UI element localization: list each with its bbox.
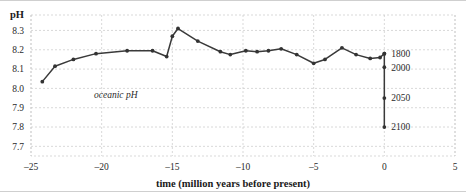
y-tick-label: 7.9 <box>12 103 24 113</box>
data-point-label: 2100 <box>391 122 410 132</box>
data-point-marker <box>151 49 155 53</box>
y-axis-ticks: 7.77.87.98.08.18.28.3 <box>12 26 24 152</box>
data-point-marker <box>94 52 98 56</box>
data-point-marker <box>170 34 174 38</box>
data-point-marker <box>279 47 283 51</box>
y-tick-label: 8.3 <box>12 26 24 36</box>
data-point-marker <box>228 53 232 57</box>
x-tick-label: –15 <box>164 162 180 172</box>
data-point-marker <box>267 49 271 53</box>
chart-figure: 7.77.87.98.08.18.28.3 –25–20–15–10–505 1… <box>0 0 466 192</box>
data-point-marker <box>382 65 386 69</box>
data-series-layer <box>40 27 386 129</box>
y-tick-label: 7.7 <box>12 142 24 152</box>
y-tick-label: 7.8 <box>12 122 24 132</box>
x-tick-label: 5 <box>453 162 458 172</box>
data-point-marker <box>218 50 222 54</box>
data-point-marker <box>312 61 316 65</box>
data-point-marker <box>323 58 327 62</box>
data-point-marker <box>295 53 299 57</box>
data-point-marker <box>255 50 259 54</box>
y-tick-label: 8.1 <box>12 64 24 74</box>
data-point-marker <box>244 49 248 53</box>
data-line-oceanic-pH <box>42 29 384 82</box>
data-point-marker <box>382 125 386 129</box>
data-point-marker <box>382 52 386 56</box>
y-tick-label: 8.2 <box>12 45 24 55</box>
x-tick-label: –25 <box>23 162 39 172</box>
series-annotation: oceanic pH <box>94 90 139 100</box>
data-point-label: 1800 <box>391 49 410 59</box>
point-labels-layer: 1800200020502100 <box>391 49 410 132</box>
ph-line-chart: 7.77.87.98.08.18.28.3 –25–20–15–10–505 1… <box>0 1 466 192</box>
data-point-marker <box>382 96 386 100</box>
y-tick-label: 8.0 <box>12 84 24 94</box>
data-point-marker <box>53 64 57 68</box>
data-point-marker <box>40 80 44 84</box>
data-point-marker <box>72 58 76 62</box>
y-axis-title: pH <box>10 9 24 20</box>
x-axis-title: time (million years before present) <box>156 178 311 190</box>
data-point-marker <box>125 49 129 53</box>
x-tick-label: –10 <box>235 162 251 172</box>
data-point-marker <box>196 39 200 43</box>
x-tick-label: 0 <box>382 162 387 172</box>
x-tick-label: –5 <box>308 162 319 172</box>
data-point-marker <box>368 57 372 61</box>
annotations-layer: oceanic pH <box>94 90 139 100</box>
data-point-label: 2000 <box>391 63 410 73</box>
x-tick-label: –20 <box>94 162 110 172</box>
data-point-marker <box>176 27 180 31</box>
x-axis-ticks: –25–20–15–10–505 <box>23 162 458 172</box>
data-point-marker <box>165 55 169 59</box>
data-point-marker <box>378 56 382 60</box>
data-point-label: 2050 <box>391 93 410 103</box>
data-point-marker <box>340 46 344 50</box>
gridlines-layer <box>31 15 455 156</box>
data-point-marker <box>354 53 358 57</box>
